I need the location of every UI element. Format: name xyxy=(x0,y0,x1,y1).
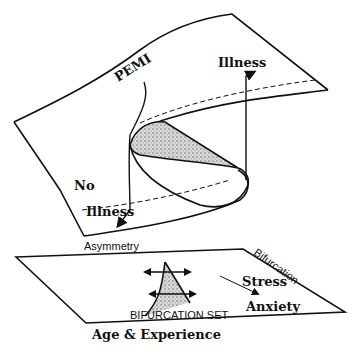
age-experience-label: Age & Experience xyxy=(91,327,221,342)
anxiety-label: Anxiety xyxy=(245,299,301,314)
no-illness-label: Illness xyxy=(86,204,134,219)
bifurcation-set-label: BIFURCATION SET xyxy=(130,309,228,321)
illness-label: Illness xyxy=(218,55,266,70)
cusp-catastrophe-diagram: PEMI Illness No Illness Asymmetry Bifurc… xyxy=(0,0,358,355)
fold-shaded-region xyxy=(130,122,238,168)
behavior-surface xyxy=(14,14,328,236)
illness-trajectory-arrow xyxy=(246,72,254,180)
no-label: No xyxy=(74,178,95,193)
stress-label: Stress xyxy=(242,274,287,289)
asymmetry-label: Asymmetry xyxy=(84,240,140,252)
